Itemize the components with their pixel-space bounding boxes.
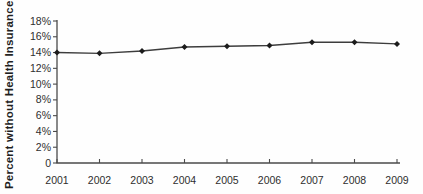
x-axis-tick-label: 2004 [173,174,197,186]
line-chart-plot-area: 18%16%14%12%10%8%6%4%2%02001200220032004… [0,0,423,194]
x-axis-tick-label: 2002 [88,174,112,186]
data-point-2006 [267,42,273,48]
chart-figure: Percent without Health Insurance 18%16%1… [0,0,423,194]
y-axis-tick-label: 6% [36,109,51,121]
x-axis-tick-label: 2006 [258,174,282,186]
y-axis-tick-label: 14% [30,46,51,58]
data-point-2005 [224,43,230,49]
y-axis-tick-label: 0 [45,157,51,169]
x-axis-tick-label: 2008 [343,174,367,186]
y-axis-tick-label: 8% [36,93,51,105]
y-axis-tick-label: 16% [30,30,51,42]
data-point-2003 [139,48,145,54]
data-point-2008 [352,39,358,45]
x-axis-tick-label: 2007 [300,174,324,186]
data-point-2004 [182,44,188,50]
x-axis-tick-label: 2009 [385,174,409,186]
data-point-2001 [54,50,60,56]
x-axis-tick-label: 2005 [215,174,239,186]
data-point-2009 [394,41,400,47]
data-point-2007 [309,39,315,45]
y-axis-tick-label: 2% [36,141,51,153]
y-axis-tick-label: 18% [30,15,51,27]
x-axis-tick-label: 2003 [130,174,154,186]
y-axis-tick-label: 4% [36,125,51,137]
y-axis-tick-label: 12% [30,62,51,74]
x-axis-tick-label: 2001 [45,174,69,186]
data-point-2002 [97,50,103,56]
y-axis-tick-label: 10% [30,78,51,90]
